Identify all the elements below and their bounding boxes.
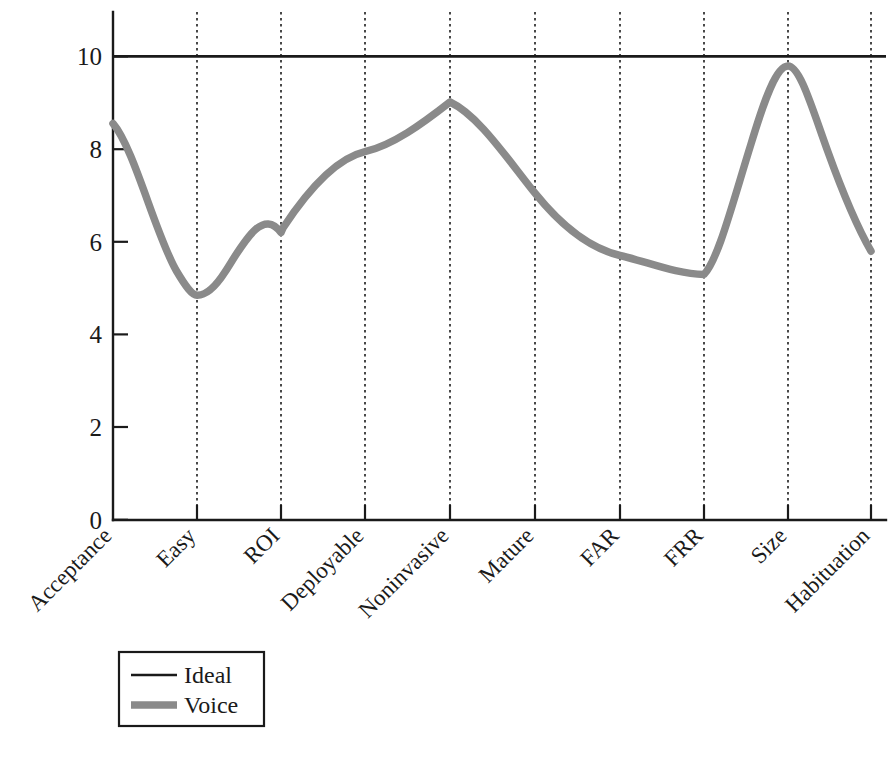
x-label-acceptance: Acceptance [23,523,117,617]
x-label-mature: Mature [474,523,539,588]
y-tick-label-2: 2 [90,414,103,441]
x-label-deployable: Deployable [276,523,369,616]
y-tick-label-6: 6 [90,229,103,256]
legend-label-voice: Voice [184,692,238,718]
chart-figure: 0 2 4 6 8 10 Ideal Voice Acceptance [0,0,895,759]
y-axis-tick-labels: 0 2 4 6 8 10 [77,43,103,534]
x-label-noninvasive: Noninvasive [354,523,454,623]
x-axis-category-labels: Acceptance Easy ROI Deployable Noninvasi… [23,522,875,622]
x-label-size: Size [746,523,792,569]
y-tick-label-8: 8 [90,136,103,163]
series-line-voice [113,66,871,295]
x-label-frr: FRR [659,522,708,571]
legend: Ideal Voice [119,652,264,726]
x-axis-ticks [197,505,871,520]
chart-plot-area: 0 2 4 6 8 10 Ideal Voice Acceptance [0,0,895,759]
x-label-roi: ROI [239,523,285,569]
x-label-habituation: Habituation [780,523,875,618]
y-tick-label-4: 4 [90,321,103,348]
y-tick-label-10: 10 [77,43,102,70]
x-label-far: FAR [575,522,624,571]
x-label-easy: Easy [151,523,201,573]
legend-label-ideal: Ideal [184,662,232,688]
